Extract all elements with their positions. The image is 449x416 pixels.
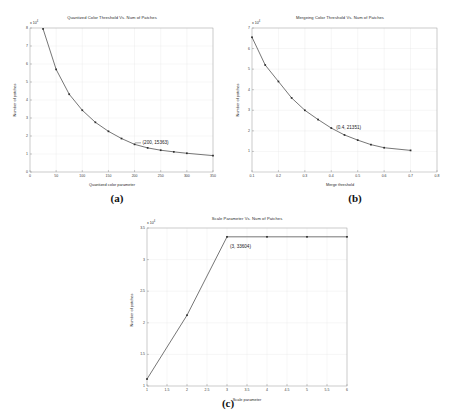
chart-panel-c: Scale Parameter Vs. Num of Patches Scale…	[85, 200, 375, 416]
y-tick-label-a: 8	[20, 26, 28, 30]
x-tick-label-c: 2.5	[205, 388, 210, 392]
y-axis-exponent-a: x 104	[30, 20, 38, 25]
data-annotation-a: (200, 15363)	[143, 140, 169, 145]
x-tick-label-b: 0.3	[302, 174, 307, 178]
y-tick-label-c: 3.5	[137, 226, 145, 230]
y-tick-label-c: 2	[137, 321, 145, 325]
x-axis-label-a: Quantized color parameter	[89, 182, 135, 187]
y-tick-label-c: 1.5	[137, 352, 145, 356]
x-tick-label-b: 0.7	[408, 174, 413, 178]
y-tick-label-a: 3	[20, 116, 28, 120]
x-tick-label-c: 1.5	[165, 388, 170, 392]
y-axis-label-a: Number of patches	[12, 84, 17, 117]
y-tick-label-a: 7	[20, 44, 28, 48]
plot-canvas-b	[225, 0, 449, 200]
plot-area-c: Scale Parameter Vs. Num of Patches Scale…	[85, 200, 375, 416]
x-tick-label-c: 2	[186, 388, 188, 392]
x-tick-label-b: 0.2	[276, 174, 281, 178]
y-axis-exponent-b: x 104	[252, 20, 260, 25]
plot-area-b: Mergeing Color Threshold Vs. Num of Patc…	[225, 0, 449, 200]
y-tick-label-b: 2	[242, 129, 250, 133]
x-tick-label-c: 3	[226, 388, 228, 392]
chart-panel-b: Mergeing Color Threshold Vs. Num of Patc…	[225, 0, 449, 200]
plot-area-a: Quantized Color Threshold Vs. Num of Pat…	[0, 0, 224, 200]
x-tick-label-c: 4.5	[285, 388, 290, 392]
x-tick-label-a: 200	[132, 174, 138, 178]
chart-panel-a: Quantized Color Threshold Vs. Num of Pat…	[0, 0, 224, 200]
x-axis-label-b: Merge threshold	[326, 182, 354, 187]
x-tick-label-b: 0.4	[329, 174, 334, 178]
y-tick-label-b: 3	[242, 108, 250, 112]
x-axis-label-c: Scale parameter	[233, 397, 262, 402]
x-tick-label-a: 350	[210, 174, 216, 178]
x-tick-label-b: 0.5	[355, 174, 360, 178]
y-tick-label-b: 1	[242, 149, 250, 153]
y-tick-label-b: 5	[242, 67, 250, 71]
chart-title-c: Scale Parameter Vs. Num of Patches	[85, 216, 409, 221]
x-tick-label-c: 4	[266, 388, 268, 392]
y-tick-label-a: 1	[20, 152, 28, 156]
y-tick-label-c: 2.5	[137, 289, 145, 293]
y-tick-label-a: 0	[20, 170, 28, 174]
data-annotation-b: (0.4, 21351)	[336, 125, 361, 130]
x-tick-label-b: 0.1	[250, 174, 255, 178]
subcaption-a: (a)	[111, 192, 124, 204]
x-tick-label-c: 6	[346, 388, 348, 392]
x-tick-label-a: 100	[79, 174, 85, 178]
y-axis-exponent-c: x 104	[147, 220, 155, 225]
x-tick-label-c: 1	[146, 388, 148, 392]
x-tick-label-a: 0	[29, 174, 31, 178]
subcaption-c: (c)	[222, 397, 234, 409]
x-tick-label-a: 300	[184, 174, 190, 178]
x-tick-label-a: 50	[54, 174, 58, 178]
y-tick-label-a: 6	[20, 62, 28, 66]
y-tick-label-a: 2	[20, 134, 28, 138]
x-tick-label-a: 150	[106, 174, 112, 178]
y-tick-label-b: 4	[242, 88, 250, 92]
y-tick-label-a: 5	[20, 80, 28, 84]
x-tick-label-b: 0.8	[435, 174, 440, 178]
x-tick-label-c: 5	[306, 388, 308, 392]
y-tick-label-c: 3	[137, 258, 145, 262]
x-tick-label-a: 250	[158, 174, 164, 178]
x-tick-label-c: 3.5	[245, 388, 250, 392]
data-annotation-c: (3, 33604)	[230, 244, 251, 249]
subcaption-b: (b)	[348, 192, 361, 204]
x-tick-label-c: 5.5	[325, 388, 330, 392]
y-tick-label-b: 6	[242, 47, 250, 51]
y-axis-label-b: Number of patches	[235, 84, 240, 117]
y-axis-label-c: Number of patches	[129, 294, 134, 327]
plot-canvas-a	[0, 0, 224, 200]
x-tick-label-b: 0.6	[382, 174, 387, 178]
y-tick-label-c: 1	[137, 384, 145, 388]
y-tick-label-a: 4	[20, 98, 28, 102]
y-tick-label-b: 7	[242, 26, 250, 30]
